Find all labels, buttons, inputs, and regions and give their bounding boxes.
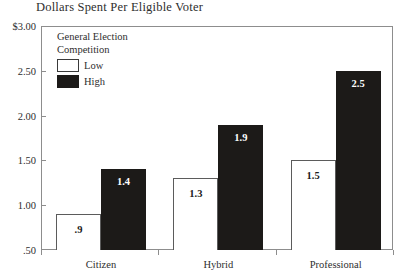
legend-label-high: High [84, 76, 105, 87]
chart-title: Dollars Spent Per Eligible Voter [36, 0, 203, 15]
x-tick-mark [276, 250, 277, 255]
x-category-label-professional: Professional [310, 259, 362, 270]
bar-value-label: 1.5 [292, 170, 335, 181]
chart-figure: Dollars Spent Per Eligible Voter .501.00… [0, 0, 402, 280]
bar-value-label: .9 [57, 224, 100, 235]
x-category-label-hybrid: Hybrid [203, 259, 233, 270]
bar-professional-low[interactable]: 1.5 [291, 160, 336, 250]
bar-professional-high[interactable]: 2.5 [336, 71, 381, 250]
bar-hybrid-high[interactable]: 1.9 [218, 125, 263, 250]
bar-value-label: 1.9 [218, 132, 263, 143]
legend-swatch-high-icon [57, 75, 79, 88]
x-tick-mark [393, 250, 394, 255]
legend-title-line-2: Competition [57, 44, 197, 57]
x-tick-mark [41, 250, 42, 255]
bar-value-label: 1.4 [101, 176, 146, 187]
y-tick-mark [41, 71, 46, 72]
y-tick-label: 1.00 [0, 200, 36, 211]
legend-item-low[interactable]: Low [57, 59, 197, 72]
bar-value-label: 1.3 [174, 188, 217, 199]
y-tick-label: .50 [0, 245, 36, 256]
y-tick-label: 1.50 [0, 155, 36, 166]
legend-item-high[interactable]: High [57, 75, 197, 88]
y-tick-mark [41, 116, 46, 117]
x-tick-mark [158, 250, 159, 255]
y-tick-label: 2.00 [0, 110, 36, 121]
legend-swatch-low-icon [57, 59, 79, 72]
bar-citizen-high[interactable]: 1.4 [101, 169, 146, 250]
bar-citizen-low[interactable]: .9 [56, 214, 101, 250]
y-tick-mark [41, 205, 46, 206]
chart-legend: General Election Competition Low High [57, 31, 197, 88]
y-tick-label: 2.50 [0, 65, 36, 76]
bar-value-label: 2.5 [336, 78, 381, 89]
legend-label-low: Low [84, 60, 103, 71]
bar-hybrid-low[interactable]: 1.3 [173, 178, 218, 250]
y-tick-label: $3.00 [0, 21, 36, 32]
legend-title-line-1: General Election [57, 31, 197, 44]
y-axis: .501.001.502.002.50$3.00 [0, 0, 36, 280]
y-tick-mark [41, 160, 46, 161]
x-category-label-citizen: Citizen [86, 259, 116, 270]
